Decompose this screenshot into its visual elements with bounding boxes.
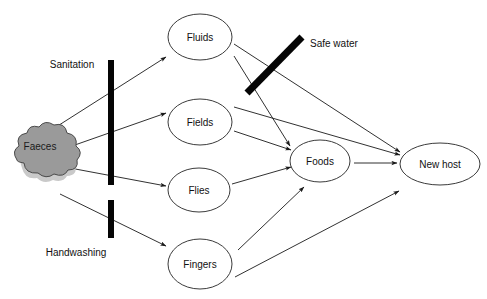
node-fluids[interactable]: Fluids [168,14,232,60]
sanitation-barrier-bar [108,60,114,185]
foods-label: Foods [306,156,334,167]
handwashing-barrier-label: Handwashing [46,247,107,258]
flies-label: Flies [188,185,209,196]
fields-label: Fields [187,117,214,128]
node-new-host[interactable]: New host [400,143,480,185]
arrow-flies-to-foods [232,167,291,184]
arrow-faeces-to-fields [72,113,166,146]
safe-water-barrier-label: Safe water [310,38,358,49]
sanitation-barrier-label: Sanitation [50,59,94,70]
node-flies[interactable]: Flies [168,168,230,212]
arrow-fluids-to-new-host [234,44,400,152]
faeces-label: Faeces [24,141,57,152]
f-diagram-canvas: Faeces Sanitation Handwashing Safe water… [0,0,487,299]
arrow-fingers-to-new-host [235,191,399,277]
fluids-label: Fluids [187,32,214,43]
arrow-fluids-to-foods [234,56,290,146]
new-host-label: New host [419,159,461,170]
diagram-svg: Faeces Sanitation Handwashing Safe water… [0,0,487,299]
faeces-source-node: Faeces [14,122,80,182]
node-foods[interactable]: Foods [290,140,350,182]
arrow-faeces-to-flies [70,168,166,186]
handwashing-barrier-bar [108,200,114,238]
arrow-fingers-to-foods [238,187,304,250]
safe-water-barrier-bar [247,37,302,93]
node-fields[interactable]: Fields [168,99,232,145]
node-fingers[interactable]: Fingers [168,239,232,289]
fingers-label: Fingers [183,259,216,270]
